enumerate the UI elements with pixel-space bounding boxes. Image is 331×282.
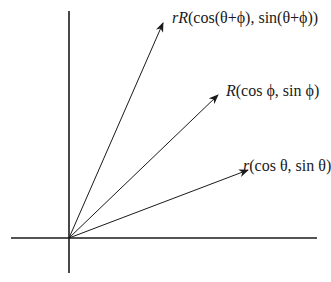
label-rR: rR(cos(θ+ϕ), sin(θ+ϕ)) (172, 10, 318, 26)
label-r: r(cos θ, sin θ) (243, 158, 331, 174)
label-rR-prefix: rR (172, 9, 188, 26)
label-R-prefix: R (226, 82, 236, 99)
label-R-coords: (cos ϕ, sin ϕ) (236, 82, 320, 99)
vector-r (69, 170, 248, 238)
label-R: R(cos ϕ, sin ϕ) (226, 83, 319, 99)
label-rR-coords: (cos(θ+ϕ), sin(θ+ϕ)) (188, 9, 318, 26)
vector-rR (69, 23, 163, 238)
vector-R (69, 95, 218, 238)
label-r-coords: (cos θ, sin θ) (249, 157, 331, 174)
